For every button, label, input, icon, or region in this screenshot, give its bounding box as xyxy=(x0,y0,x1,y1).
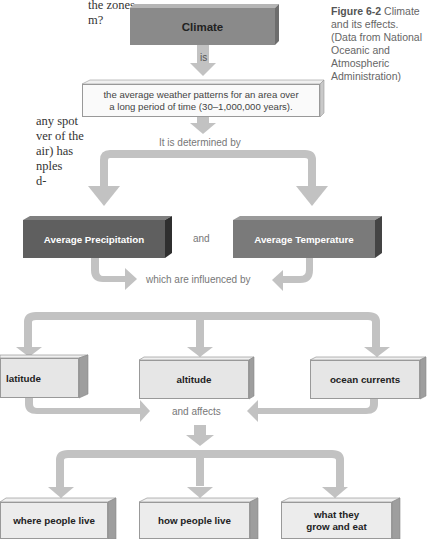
definition-line-1: the average weather patterns for an area… xyxy=(103,89,298,101)
connector-affects-label: and affects xyxy=(172,406,221,417)
connector-influenced-label: which are influenced by xyxy=(146,274,251,285)
average-precipitation-label: Average Precipitation xyxy=(44,234,144,245)
climate-box: Climate xyxy=(130,8,275,45)
definition-box: the average weather patterns for an area… xyxy=(82,84,320,117)
altitude-label: altitude xyxy=(177,374,212,385)
influence-box-ocean-currents: ocean currents xyxy=(310,360,420,399)
effect-box-how-people-live: how people live xyxy=(139,502,250,539)
what-they-grow-line-2: grow and eat xyxy=(306,521,366,533)
what-they-grow-line-1: what they xyxy=(314,509,359,521)
diagram-graphics xyxy=(0,0,436,539)
average-temperature-label: Average Temperature xyxy=(254,234,354,245)
effect-box-what-they-grow-and-eat: what they grow and eat xyxy=(281,502,392,539)
latitude-label: latitude xyxy=(6,373,41,384)
effect-box-where-people-live: where people live xyxy=(0,502,108,539)
average-precipitation-box: Average Precipitation xyxy=(23,220,165,258)
influence-box-altitude: altitude xyxy=(139,360,249,399)
definition-line-2: a long period of time (30–1,000,000 year… xyxy=(109,101,292,113)
how-people-live-label: how people live xyxy=(158,515,231,526)
ocean-currents-label: ocean currents xyxy=(330,374,400,385)
connector-determined-label: It is determined by xyxy=(159,137,241,148)
average-temperature-box: Average Temperature xyxy=(233,220,375,258)
and-label: and xyxy=(193,233,210,244)
where-people-live-label: where people live xyxy=(13,515,95,526)
connector-is-label: is xyxy=(200,52,207,63)
climate-label: Climate xyxy=(182,21,224,33)
influence-box-latitude: latitude xyxy=(0,358,79,398)
